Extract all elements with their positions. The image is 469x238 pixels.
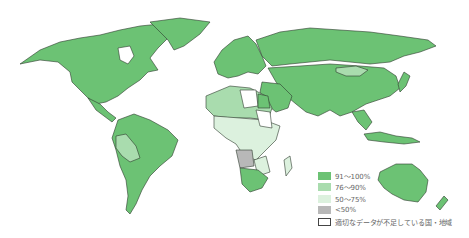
legend-swatch xyxy=(318,218,331,226)
legend-swatch xyxy=(318,195,331,203)
legend-item-no-data: 適切なデータが不足している国・地域 xyxy=(318,216,452,227)
legend-label: <50% xyxy=(335,206,356,214)
region-egypt xyxy=(258,94,270,108)
region-russia xyxy=(256,28,436,66)
region-madagascar xyxy=(284,156,292,176)
region-angola xyxy=(236,150,254,168)
region-southeast-asia xyxy=(352,110,372,130)
legend-item-76-90: 76～90% xyxy=(318,182,452,193)
region-north-america xyxy=(20,24,180,104)
legend-label: 76～90% xyxy=(335,182,366,192)
legend-label: 50～75% xyxy=(335,194,366,204)
map-legend: 91～100% 76～90% 50～75% <50% 適切なデータが不足している… xyxy=(318,170,452,228)
legend-label: 91～100% xyxy=(335,171,370,181)
legend-item-50-75: 50～75% xyxy=(318,193,452,204)
region-south-america xyxy=(112,114,178,214)
legend-swatch xyxy=(318,206,331,214)
region-japan xyxy=(398,72,410,92)
legend-swatch xyxy=(318,183,331,191)
legend-swatch xyxy=(318,172,331,180)
legend-item-under-50: <50% xyxy=(318,205,452,216)
legend-label: 適切なデータが不足している国・地域 xyxy=(335,217,452,227)
region-indonesia xyxy=(364,132,420,144)
legend-item-91-100: 91～100% xyxy=(318,170,452,181)
